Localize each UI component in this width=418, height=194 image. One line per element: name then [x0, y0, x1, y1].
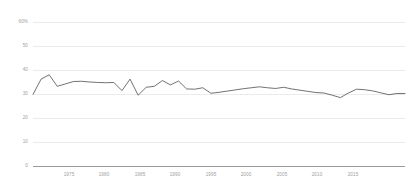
y-tick-label-0: 0: [2, 164, 28, 169]
x-tick-label-2005: 2005: [267, 173, 297, 178]
y-tick-label-20: 20: [2, 116, 28, 121]
x-tick-label-2010: 2010: [302, 173, 332, 178]
y-tick-label-50: 50: [2, 44, 28, 49]
x-tick-label-1985: 1985: [125, 173, 155, 178]
x-tick-label-1995: 1995: [196, 173, 226, 178]
x-axis-line: [33, 166, 405, 167]
x-tick-label-1990: 1990: [160, 173, 190, 178]
x-tick-label-2000: 2000: [231, 173, 261, 178]
x-tick-label-1975: 1975: [54, 173, 84, 178]
line-chart: 60% 50 40 30 20 10 0 1975 1980 1985 1990…: [0, 0, 418, 194]
y-tick-label-30: 30: [2, 92, 28, 97]
series-line-1: [33, 75, 405, 98]
y-tick-label-60: 60%: [2, 20, 28, 25]
x-tick-label-1980: 1980: [89, 173, 119, 178]
series-line-group: [33, 22, 405, 166]
y-tick-label-10: 10: [2, 140, 28, 145]
plot-area: [33, 22, 405, 166]
x-tick-label-2015: 2015: [338, 173, 368, 178]
y-tick-label-40: 40: [2, 68, 28, 73]
